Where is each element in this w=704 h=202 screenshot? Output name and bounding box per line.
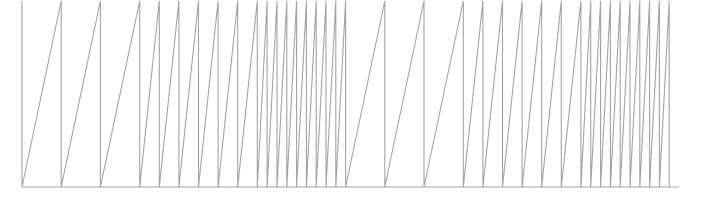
sawtooth-line (22, 1, 669, 187)
chart-plot-area (0, 0, 704, 202)
sawtooth-series (22, 1, 679, 187)
